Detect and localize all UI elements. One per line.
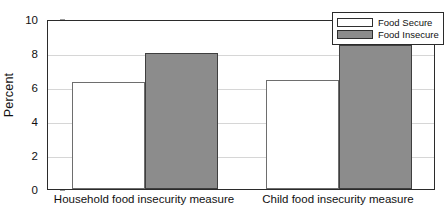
y-axis-title-label: Percent [2, 73, 16, 117]
bar-food-insecure [145, 53, 218, 189]
legend-item: Food Insecure [337, 29, 439, 40]
legend-item: Food Secure [337, 17, 439, 28]
legend-label-food-secure: Food Secure [378, 17, 432, 28]
bar-food-secure [72, 82, 145, 189]
y-axis-tick-label: 0 [32, 184, 38, 196]
legend-label-food-insecure: Food Insecure [378, 29, 439, 40]
y-axis-tick-label: 10 [25, 14, 38, 26]
y-axis-tick-label: 4 [32, 116, 38, 128]
bar-chart: Percent 0246810 Household food insecurit… [0, 0, 446, 221]
x-axis-group-label: Child food insecurity measure [262, 193, 414, 205]
y-axis-tick-label: 2 [32, 150, 38, 162]
y-axis-tick-labels: 0246810 [18, 20, 42, 190]
legend-swatch-food-insecure [337, 30, 373, 39]
x-axis-group-labels: Household food insecurity measureChild f… [47, 193, 435, 213]
legend-swatch-food-secure [337, 18, 373, 27]
x-axis-group-label: Household food insecurity measure [54, 193, 234, 205]
legend: Food Secure Food Insecure [332, 12, 444, 45]
bar-food-secure [266, 80, 339, 189]
y-axis-title: Percent [0, 0, 18, 190]
y-axis-tick-label: 8 [32, 48, 38, 60]
plot-area [47, 20, 435, 190]
bar-food-insecure [339, 45, 412, 190]
y-axis-tick-label: 6 [32, 82, 38, 94]
